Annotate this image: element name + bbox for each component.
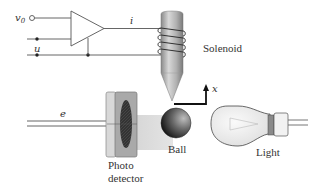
junction-dot xyxy=(35,53,38,56)
bulb-socket xyxy=(274,113,288,136)
photo-detector-label-2: detector xyxy=(108,172,144,184)
light-label: Light xyxy=(256,146,280,158)
solenoid: Solenoid xyxy=(158,11,243,101)
e-label: e xyxy=(60,108,66,119)
position-axis: x xyxy=(174,83,218,104)
ball-label: Ball xyxy=(168,143,186,155)
x-label: x xyxy=(212,83,218,94)
terminal-open-circle xyxy=(30,16,35,21)
current-wire: i xyxy=(104,15,163,29)
i-label: i xyxy=(130,15,133,26)
photo-detector-label-1: Photo xyxy=(108,159,134,171)
solenoid-label: Solenoid xyxy=(203,42,243,54)
control-input-u: u xyxy=(27,38,163,57)
ball-icon xyxy=(161,108,191,138)
error-signal-wire: e xyxy=(27,108,107,126)
bulb-icon xyxy=(211,106,270,146)
light-bulb: Light xyxy=(211,106,308,158)
u-label: u xyxy=(34,43,40,54)
up-arrow-icon xyxy=(203,84,209,91)
amplifier-icon xyxy=(71,11,104,46)
input-terminal-v0: v0 xyxy=(15,12,71,25)
amplifier-input-wire xyxy=(27,37,71,40)
maglev-diagram: v0 u i Solenoid x xyxy=(0,0,324,190)
v0-label: v0 xyxy=(15,12,26,25)
junction-dot xyxy=(35,37,38,40)
